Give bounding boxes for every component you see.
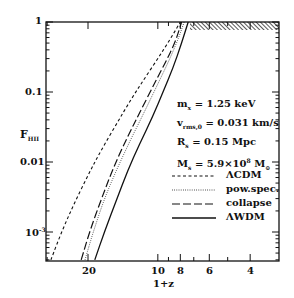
parameter-annotation: mx = 1.25 keV vrms,0 = 0.031 km/s Rs = 0… bbox=[177, 96, 279, 175]
xtick-label-6: 6 bbox=[206, 265, 213, 276]
legend-label-lcdm: ΛCDM bbox=[226, 169, 261, 180]
hatched-region bbox=[190, 22, 279, 30]
xtick-label-4: 4 bbox=[247, 265, 254, 276]
annotation-rs: Rs = 0.15 Mpc bbox=[177, 134, 279, 153]
ytick-label-1: 1 bbox=[35, 15, 42, 26]
legend-swatches bbox=[172, 176, 216, 218]
legend-label-lwdm: ΛWDM bbox=[226, 211, 265, 222]
curves bbox=[51, 22, 188, 260]
y-axis-label-main: F bbox=[20, 128, 28, 141]
ytick-label-0.01: 0.01 bbox=[20, 156, 44, 167]
x-axis-label: 1+z bbox=[153, 278, 174, 289]
xtick-label-8: 8 bbox=[177, 265, 184, 276]
y-axis-label-sub: HII bbox=[28, 135, 39, 142]
legend-label-powspec: pow.spec. bbox=[226, 183, 279, 194]
ytick-label-1e-3: 10-3 bbox=[25, 226, 46, 238]
ytick-1e3-base: 10 bbox=[25, 227, 39, 238]
ytick-label-0.1: 0.1 bbox=[25, 86, 42, 97]
curve-cdm bbox=[51, 22, 180, 260]
curve-wdm bbox=[95, 22, 188, 260]
ytick-1e3-exponent: -3 bbox=[39, 226, 46, 233]
y-axis-label: FHII bbox=[20, 128, 39, 142]
xtick-label-20: 20 bbox=[82, 265, 96, 276]
annotation-vrms: vrms,0 = 0.031 km/s bbox=[177, 115, 279, 134]
annotation-mx: mx = 1.25 keV bbox=[177, 96, 279, 115]
legend-label-collapse: collapse bbox=[226, 197, 272, 208]
xtick-label-10: 10 bbox=[151, 265, 165, 276]
curve-powspec bbox=[85, 22, 184, 260]
